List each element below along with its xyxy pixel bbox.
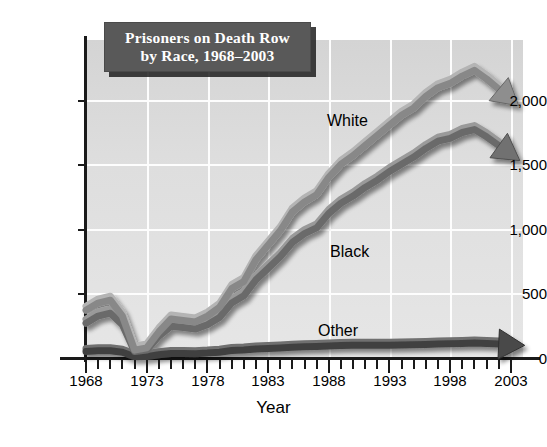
x-tick-mark-1989 <box>340 360 342 369</box>
y-tick-mark-1000 <box>78 229 86 231</box>
x-tick-mark-1992 <box>376 360 378 369</box>
x-tick-mark-1984 <box>279 360 281 369</box>
x-tick-mark-1970 <box>109 360 111 369</box>
x-tick-label-1978: 1978 <box>191 372 224 389</box>
series-label-white: White <box>327 112 368 130</box>
x-tick-mark-1971 <box>121 360 123 369</box>
x-tick-label-1983: 1983 <box>251 372 284 389</box>
x-tick-mark-1981 <box>243 360 245 369</box>
chart-title-text: Prisoners on Death Row by Race, 1968–200… <box>125 29 290 66</box>
x-tick-mark-1996 <box>425 360 427 369</box>
x-tick-mark-1977 <box>194 360 196 369</box>
y-tick-label-500: 500 <box>473 285 547 302</box>
x-axis-title: Year <box>0 398 547 418</box>
y-tick-label-2000: 2,000 <box>473 92 547 109</box>
y-tick-mark-2000 <box>78 100 86 102</box>
y-tick-label-1500: 1,500 <box>473 156 547 173</box>
series-line-black <box>86 126 520 352</box>
x-tick-mark-1980 <box>231 360 233 369</box>
x-tick-mark-1985 <box>291 360 293 369</box>
x-tick-label-1993: 1993 <box>373 372 406 389</box>
x-tick-mark-2002 <box>498 360 500 369</box>
x-tick-mark-1974 <box>158 360 160 369</box>
x-tick-mark-1979 <box>219 360 221 369</box>
x-tick-mark-1986 <box>304 360 306 369</box>
x-tick-mark-1990 <box>352 360 354 369</box>
x-tick-mark-1969 <box>97 360 99 369</box>
x-tick-mark-1987 <box>316 360 318 369</box>
y-tick-label-1000: 1,000 <box>473 221 547 238</box>
x-tick-mark-1999 <box>461 360 463 369</box>
chart-title-box: Prisoners on Death Row by Race, 1968–200… <box>104 22 311 72</box>
x-tick-mark-1972 <box>134 360 136 369</box>
series-label-other: Other <box>318 322 358 340</box>
x-tick-label-2003: 2003 <box>494 372 527 389</box>
y-tick-mark-1500 <box>78 164 86 166</box>
x-tick-mark-1995 <box>413 360 415 369</box>
x-tick-label-1988: 1988 <box>312 372 345 389</box>
chart-figure: White Black Other 0 500 1,000 1,500 2,00… <box>0 0 547 447</box>
x-tick-mark-1991 <box>364 360 366 369</box>
x-tick-mark-2001 <box>486 360 488 369</box>
x-tick-mark-1997 <box>437 360 439 369</box>
y-tick-mark-500 <box>78 293 86 295</box>
x-tick-mark-1976 <box>182 360 184 369</box>
chart-title-line2: by Race, 1968–2003 <box>140 47 274 64</box>
chart-title-line1: Prisoners on Death Row <box>125 29 290 46</box>
y-tick-mark-0 <box>78 357 86 359</box>
series-line-white <box>86 66 519 350</box>
x-tick-mark-1975 <box>170 360 172 369</box>
x-tick-label-1973: 1973 <box>130 372 163 389</box>
x-tick-label-1998: 1998 <box>433 372 466 389</box>
x-tick-mark-1994 <box>401 360 403 369</box>
x-tick-label-1968: 1968 <box>69 372 102 389</box>
x-tick-mark-1982 <box>255 360 257 369</box>
x-tick-mark-2000 <box>473 360 475 369</box>
series-label-black: Black <box>330 243 369 261</box>
